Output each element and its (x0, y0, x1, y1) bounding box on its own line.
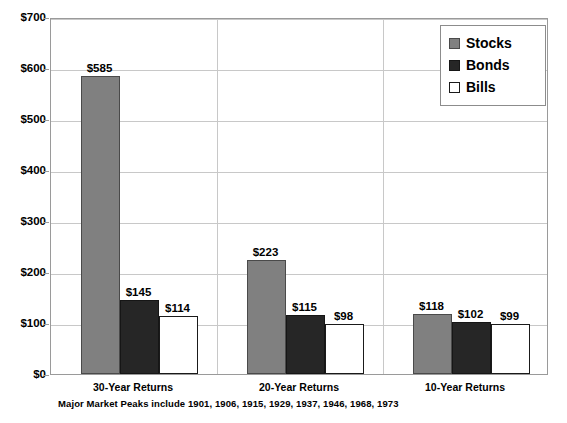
bar-value-label: $114 (149, 303, 206, 315)
y-axis-tick-mark (44, 120, 49, 121)
y-axis-tick-mark (44, 171, 49, 172)
bar-stocks-1[interactable] (81, 76, 120, 374)
y-axis: $700$600$500$400$300$200$100$0 (0, 0, 46, 423)
gridline (51, 172, 547, 173)
legend-swatch-stocks-icon (449, 38, 460, 49)
bar-value-label: $223 (237, 247, 294, 259)
bar-value-label: $99 (481, 311, 538, 323)
bar-stocks-3[interactable] (413, 314, 452, 374)
y-axis-tick-label: $400 (2, 165, 46, 177)
chart-legend: Stocks Bonds Bills (440, 25, 546, 106)
gridline (51, 121, 547, 122)
legend-label-bills: Bills (466, 80, 496, 94)
y-axis-tick-label: $200 (2, 267, 46, 279)
bar-value-label: $98 (315, 311, 372, 323)
bar-value-label: $585 (71, 63, 128, 75)
y-axis-tick-mark (44, 222, 49, 223)
y-axis-tick-label: $700 (2, 12, 46, 24)
bar-stocks-2[interactable] (247, 260, 286, 374)
y-axis-tick-mark (44, 324, 49, 325)
y-axis-tick-mark (44, 375, 49, 376)
legend-item-bonds[interactable]: Bonds (449, 54, 537, 76)
legend-swatch-bonds-icon (449, 60, 460, 71)
y-axis-tick-label: $600 (2, 63, 46, 75)
legend-item-stocks[interactable]: Stocks (449, 32, 537, 54)
category-label-2: 20-Year Returns (216, 381, 382, 393)
y-axis-tick-mark (44, 273, 49, 274)
chart-footnote: Major Market Peaks include 1901, 1906, 1… (58, 398, 399, 409)
bar-bills-2[interactable] (325, 324, 364, 374)
legend-item-bills[interactable]: Bills (449, 76, 537, 98)
legend-swatch-bills-icon (449, 82, 460, 93)
y-axis-tick-label: $100 (2, 318, 46, 330)
bar-bonds-2[interactable] (286, 315, 325, 374)
y-axis-tick-label: $0 (2, 369, 46, 381)
category-label-1: 30-Year Returns (50, 381, 216, 393)
y-axis-tick-mark (44, 18, 49, 19)
gridline (51, 274, 547, 275)
bar-bills-1[interactable] (159, 316, 198, 374)
bar-bonds-3[interactable] (452, 322, 491, 374)
category-separator (383, 19, 384, 374)
bar-value-label: $145 (110, 287, 167, 299)
gridline (51, 19, 547, 20)
legend-label-bonds: Bonds (466, 58, 510, 72)
bar-bills-3[interactable] (491, 324, 530, 374)
gridline (51, 223, 547, 224)
bar-chart: $700$600$500$400$300$200$100$0 30-Year R… (0, 0, 567, 423)
legend-label-stocks: Stocks (466, 36, 512, 50)
y-axis-tick-label: $300 (2, 216, 46, 228)
category-label-3: 10-Year Returns (382, 381, 548, 393)
y-axis-tick-label: $500 (2, 114, 46, 126)
y-axis-tick-mark (44, 69, 49, 70)
category-separator (217, 19, 218, 374)
